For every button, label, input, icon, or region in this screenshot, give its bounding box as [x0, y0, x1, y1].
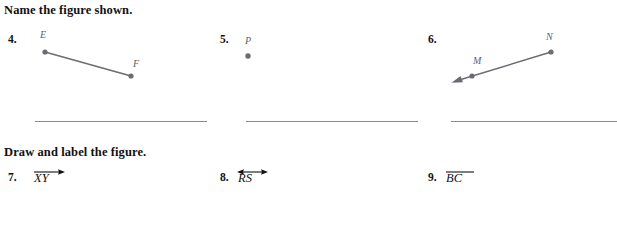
answer-line-5[interactable]	[246, 121, 418, 122]
worksheet-page: Name the figure shown. 4. E F 5. P 6. M …	[0, 0, 617, 250]
answer-line-6[interactable]	[451, 121, 617, 122]
problem-number-8: 8.	[220, 171, 229, 183]
problem-number-9: 9.	[428, 171, 437, 183]
figure-segment-ef	[0, 0, 220, 100]
figure-point-p	[230, 30, 310, 90]
notation-ray-xy: XY	[34, 170, 49, 186]
problem-number-5: 5.	[220, 33, 229, 45]
notation-line-rs: RS	[238, 170, 252, 186]
figure-ray-nm	[430, 20, 617, 100]
problem-number-7: 7.	[8, 171, 17, 183]
overbar-icon	[445, 166, 479, 176]
ray-arrow-icon	[33, 166, 67, 176]
double-arrow-icon	[237, 166, 271, 176]
answer-line-4[interactable]	[35, 121, 207, 122]
notation-segment-bc: BC	[446, 170, 462, 186]
section-heading-draw-and-label: Draw and label the figure.	[4, 145, 146, 160]
